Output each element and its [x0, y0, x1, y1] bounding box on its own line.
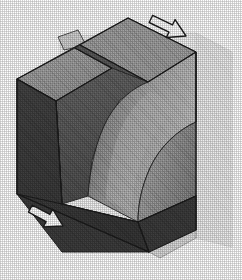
isometric-solid-drawing	[0, 0, 242, 280]
figure-root: Isometric cube with curved section cut i…	[0, 0, 242, 280]
